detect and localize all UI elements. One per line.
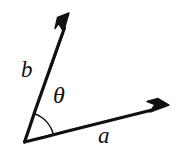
angle-theta-label: θ — [53, 83, 65, 107]
vector-b-label: b — [21, 58, 33, 81]
vector-a-shaft-texture — [30, 112, 145, 141]
vector-b-arrowhead — [55, 13, 69, 32]
vector-a-label: a — [98, 124, 110, 147]
vector-diagram-figure: b θ a — [0, 0, 181, 155]
vector-a-group — [25, 99, 170, 143]
angle-arc — [35, 114, 54, 135]
